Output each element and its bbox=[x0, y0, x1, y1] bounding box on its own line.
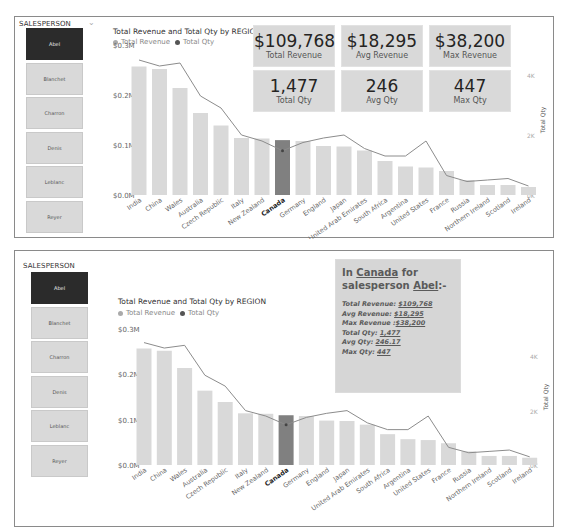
y2-axis-label: Total Qty bbox=[539, 106, 547, 134]
bar-russia[interactable] bbox=[460, 180, 475, 195]
y-axis-tick: $0.2M bbox=[118, 371, 140, 379]
bar-italy[interactable] bbox=[234, 138, 249, 195]
summary-heading: In Canada for salesperson Abel:- bbox=[342, 266, 454, 292]
y-axis-tick: $0.0M bbox=[113, 192, 135, 200]
bar-australia[interactable] bbox=[197, 391, 212, 465]
bar-ireland[interactable] bbox=[522, 458, 537, 465]
bar-argentina[interactable] bbox=[398, 167, 413, 196]
bar-argentina[interactable] bbox=[400, 439, 415, 465]
bar-australia[interactable] bbox=[193, 113, 208, 195]
bar-russia[interactable] bbox=[461, 451, 476, 465]
x-axis-label: China bbox=[149, 466, 169, 483]
qty-point-highlight bbox=[285, 423, 288, 426]
bar-scotland[interactable] bbox=[502, 456, 517, 465]
y2-axis-tick: 4K bbox=[530, 353, 539, 360]
summary-line: Max Revenue :$38,200 bbox=[342, 319, 454, 329]
qty-point-highlight bbox=[281, 149, 284, 152]
bar-new-zealand[interactable] bbox=[258, 414, 273, 465]
heading-text: salesperson bbox=[342, 280, 413, 291]
y-axis-tick: $0.2M bbox=[113, 92, 135, 100]
kpi-card-max-revenue: $38,200Max Revenue bbox=[429, 25, 511, 67]
bar-northern-ireland[interactable] bbox=[480, 185, 495, 195]
bar-northern-ireland[interactable] bbox=[482, 456, 497, 465]
bar-england[interactable] bbox=[319, 421, 334, 465]
y2-axis-tick: 2K bbox=[530, 408, 539, 415]
summary-line: Max Qty: 447 bbox=[342, 348, 454, 358]
kpi-card-max-qty: 447Max Qty bbox=[429, 70, 511, 112]
kpi-card-avg-qty: 246Avg Qty bbox=[341, 70, 423, 112]
heading-region: Canada bbox=[356, 267, 398, 278]
bar-south-africa[interactable] bbox=[378, 161, 393, 195]
kpi-label: Avg Qty bbox=[342, 96, 422, 106]
kpi-value: 246 bbox=[342, 76, 422, 96]
combo-chart[interactable]: $0.0M$0.1M$0.2M$0.3M0K2K4KTotal QtyIndia… bbox=[15, 251, 555, 528]
kpi-label: Total Revenue bbox=[254, 51, 334, 61]
kpi-label: Total Qty bbox=[254, 96, 334, 106]
kpi-card-avg-revenue: $18,295Avg Revenue bbox=[341, 25, 423, 67]
kpi-label: Max Qty bbox=[430, 96, 510, 106]
bottom-report-frame: SALESPERSON AbelBlanchetCharronDenisLebl… bbox=[14, 250, 554, 527]
x-axis-label: Ireland bbox=[511, 466, 534, 485]
summary-line: Total Qty: 1,477 bbox=[342, 329, 454, 339]
bar-india[interactable] bbox=[132, 67, 147, 196]
kpi-value: $38,200 bbox=[430, 31, 510, 51]
heading-text: :- bbox=[438, 280, 446, 291]
top-report-frame: SALESPERSON ⌄ AbelBlanchetCharronDenisLe… bbox=[14, 16, 554, 238]
kpi-value: $18,295 bbox=[342, 31, 422, 51]
y2-axis-tick: 4K bbox=[527, 72, 536, 79]
bar-czech-republic[interactable] bbox=[214, 126, 229, 196]
y2-axis-label: Total Qty bbox=[542, 383, 550, 411]
bar-new-zealand[interactable] bbox=[255, 139, 270, 196]
heading-text: for bbox=[398, 267, 418, 278]
y-axis-tick: $0.3M bbox=[118, 326, 140, 334]
bar-japan[interactable] bbox=[337, 147, 352, 196]
bar-scotland[interactable] bbox=[501, 185, 516, 195]
bar-india[interactable] bbox=[137, 348, 152, 465]
y-axis-tick: $0.1M bbox=[113, 142, 135, 150]
summary-line: Total Revenue: $109,768 bbox=[342, 300, 454, 310]
x-axis-label: Ireland bbox=[510, 196, 533, 215]
kpi-label: Max Revenue bbox=[430, 51, 510, 61]
heading-person: Abel bbox=[413, 280, 438, 291]
bar-italy[interactable] bbox=[238, 413, 253, 465]
x-axis-label: France bbox=[430, 466, 452, 485]
x-axis-label: China bbox=[144, 196, 164, 213]
bar-czech-republic[interactable] bbox=[218, 402, 233, 465]
bar-wales[interactable] bbox=[177, 368, 192, 465]
bar-wales[interactable] bbox=[173, 88, 188, 195]
summary-line: Avg Revenue: $18,295 bbox=[342, 310, 454, 320]
x-axis-label: France bbox=[428, 196, 450, 215]
y2-axis-tick: 2K bbox=[527, 132, 536, 139]
kpi-value: $109,768 bbox=[254, 31, 334, 51]
bar-united-states[interactable] bbox=[419, 168, 434, 196]
bar-united-arab-emirates[interactable] bbox=[357, 151, 372, 196]
y-axis-tick: $0.0M bbox=[118, 462, 140, 470]
bar-china[interactable] bbox=[152, 69, 167, 195]
x-axis-label: England bbox=[301, 196, 327, 218]
summary-line: Avg Qty: 246.17 bbox=[342, 338, 454, 348]
bar-england[interactable] bbox=[316, 146, 331, 195]
kpi-value: 1,477 bbox=[254, 76, 334, 96]
bar-united-arab-emirates[interactable] bbox=[360, 425, 375, 465]
y-axis-tick: $0.3M bbox=[113, 42, 135, 50]
bar-germany[interactable] bbox=[296, 141, 311, 195]
kpi-value: 447 bbox=[430, 76, 510, 96]
bar-japan[interactable] bbox=[340, 421, 355, 465]
summary-lines: Total Revenue: $109,768Avg Revenue: $18,… bbox=[342, 300, 454, 357]
bar-china[interactable] bbox=[157, 351, 172, 465]
heading-text: In bbox=[342, 267, 356, 278]
bar-united-states[interactable] bbox=[421, 440, 436, 465]
x-axis-label: England bbox=[305, 466, 331, 488]
bar-south-africa[interactable] bbox=[380, 434, 395, 465]
bar-ireland[interactable] bbox=[521, 187, 536, 195]
y-axis-tick: $0.1M bbox=[118, 417, 140, 425]
summary-textbox: In Canada for salesperson Abel:- Total R… bbox=[335, 259, 461, 393]
kpi-card-total-qty: 1,477Total Qty bbox=[253, 70, 335, 112]
kpi-card-total-revenue: $109,768Total Revenue bbox=[253, 25, 335, 67]
kpi-label: Avg Revenue bbox=[342, 51, 422, 61]
bar-germany[interactable] bbox=[299, 416, 314, 465]
